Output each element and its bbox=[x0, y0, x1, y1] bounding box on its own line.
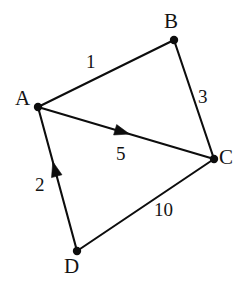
edge-b-c bbox=[174, 40, 214, 159]
node-dot-a bbox=[34, 103, 42, 111]
node-label-a: A bbox=[15, 88, 30, 109]
graph-diagram: 135210ABCD bbox=[0, 0, 244, 287]
node-label-b: B bbox=[164, 11, 178, 32]
node-dot-c bbox=[210, 155, 218, 163]
node-dot-b bbox=[170, 36, 178, 44]
arrow-icon-a-c bbox=[114, 125, 130, 135]
edges-layer bbox=[38, 40, 214, 251]
edge-weight-b-c: 3 bbox=[198, 87, 208, 106]
node-label-d: D bbox=[64, 256, 79, 277]
node-dots-layer bbox=[34, 36, 218, 255]
edge-a-b bbox=[38, 40, 174, 107]
edge-weight-d-a: 2 bbox=[35, 175, 45, 194]
edge-weight-a-b: 1 bbox=[86, 52, 96, 71]
node-label-c: C bbox=[219, 147, 233, 168]
arrow-icon-d-a bbox=[52, 162, 62, 178]
edge-weight-d-c: 10 bbox=[154, 200, 173, 219]
edge-weight-a-c: 5 bbox=[116, 144, 126, 163]
edge-d-c bbox=[77, 159, 214, 251]
